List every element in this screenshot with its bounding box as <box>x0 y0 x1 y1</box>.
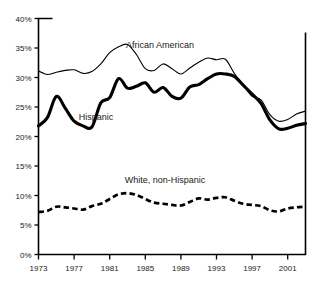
x-tick-label: 1985 <box>136 264 154 273</box>
chart-container: 0%5%10%15%20%25%30%35%40% 19731977198119… <box>0 0 318 290</box>
poverty-rate-line-chart: 0%5%10%15%20%25%30%35%40% 19731977198119… <box>0 0 318 290</box>
y-tick-label: 0% <box>20 251 32 260</box>
series-annotation: White, non-Hispanic <box>125 175 206 185</box>
y-tick-label: 15% <box>15 162 31 171</box>
y-tick-label: 35% <box>15 44 31 53</box>
y-tick-label: 20% <box>15 133 31 142</box>
x-tick-label: 1977 <box>65 264 83 273</box>
series-annotation: African American <box>126 40 194 50</box>
y-tick-label: 10% <box>15 192 31 201</box>
series-line-white-non-hispanic <box>39 193 306 212</box>
y-tick-label: 5% <box>20 221 32 230</box>
y-tick-label: 30% <box>15 74 31 83</box>
x-tick-label: 1981 <box>101 264 119 273</box>
x-axis-tick-labels: 19731977198119851989199319972001 <box>30 264 298 273</box>
chart-axes <box>35 19 306 260</box>
y-tick-label: 40% <box>15 15 31 24</box>
x-tick-label: 1993 <box>208 264 226 273</box>
series-annotation: Hispanic <box>79 112 114 122</box>
x-tick-label: 2001 <box>279 264 297 273</box>
y-tick-label: 25% <box>15 103 31 112</box>
series-annotations: African AmericanHispanicWhite, non-Hispa… <box>79 40 206 185</box>
x-tick-label: 1973 <box>30 264 48 273</box>
axis-frame <box>39 19 306 255</box>
y-axis-tick-labels: 0%5%10%15%20%25%30%35%40% <box>15 15 31 260</box>
x-tick-label: 1989 <box>172 264 190 273</box>
x-tick-label: 1997 <box>243 264 261 273</box>
chart-series-group <box>39 44 306 212</box>
